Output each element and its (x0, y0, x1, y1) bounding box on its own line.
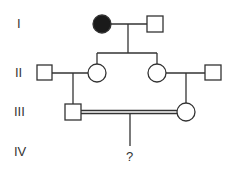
male-gen2-left (37, 65, 52, 80)
pedigree-chart (0, 0, 232, 179)
female-gen2-left (88, 64, 106, 82)
female-gen2-right (148, 64, 166, 82)
male-gen1 (147, 16, 163, 32)
male-gen2-right (205, 65, 221, 80)
unknown-offspring-label: ? (126, 149, 133, 164)
male-gen3 (65, 104, 81, 120)
affected-female-gen1 (93, 15, 111, 33)
female-gen3 (177, 103, 195, 121)
